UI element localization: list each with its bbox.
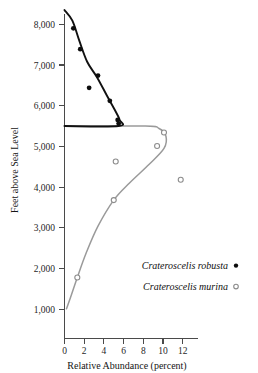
murina-point-2 bbox=[113, 159, 118, 164]
robusta-point-0 bbox=[71, 26, 76, 31]
y-tick-label-1000: 1,000 bbox=[34, 305, 56, 315]
murina-data-points bbox=[75, 130, 183, 280]
abundance-elevation-scatter-plot: 8,000 7,000 6,000 5,000 4,000 3,000 2,00… bbox=[0, 0, 258, 373]
robusta-point-6 bbox=[116, 121, 121, 126]
x-axis-title: Relative Abundance (percent) bbox=[67, 360, 186, 372]
robusta-point-2 bbox=[96, 73, 101, 78]
y-tick-label-7000: 7,000 bbox=[34, 61, 56, 71]
robusta-point-1 bbox=[78, 47, 83, 52]
murina-point-4 bbox=[111, 198, 116, 203]
x-tick-label-12: 12 bbox=[178, 346, 188, 356]
x-axis-ticks bbox=[65, 339, 183, 345]
legend-label-robusta: Crateroscelis robusta bbox=[142, 260, 228, 271]
murina-point-3 bbox=[178, 177, 183, 182]
y-tick-label-3000: 3,000 bbox=[34, 223, 56, 233]
murina-point-0 bbox=[161, 130, 166, 135]
chart-legend: Crateroscelis robusta Crateroscelis muri… bbox=[142, 260, 239, 292]
x-tick-label-6: 6 bbox=[121, 346, 126, 356]
chart-figure: 8,000 7,000 6,000 5,000 4,000 3,000 2,00… bbox=[0, 0, 258, 373]
legend-marker-robusta-filled-circle-icon bbox=[234, 263, 238, 267]
legend-label-murina: Crateroscelis murina bbox=[143, 281, 228, 292]
x-tick-label-4: 4 bbox=[102, 346, 107, 356]
y-tick-label-8000: 8,000 bbox=[34, 20, 56, 30]
y-tick-label-6000: 6,000 bbox=[34, 101, 56, 111]
x-tick-label-8: 8 bbox=[141, 346, 146, 356]
y-tick-label-2000: 2,000 bbox=[34, 264, 56, 274]
y-tick-label-4000: 4,000 bbox=[34, 183, 56, 193]
x-tick-label-0: 0 bbox=[62, 346, 67, 356]
murina-point-5 bbox=[75, 275, 80, 280]
x-tick-label-2: 2 bbox=[82, 346, 87, 356]
legend-marker-murina-open-circle-icon bbox=[234, 284, 239, 289]
y-axis-tick-labels: 8,000 7,000 6,000 5,000 4,000 3,000 2,00… bbox=[34, 20, 56, 315]
x-tick-label-10: 10 bbox=[158, 346, 168, 356]
robusta-point-3 bbox=[87, 85, 92, 90]
murina-point-1 bbox=[155, 143, 160, 148]
y-tick-label-5000: 5,000 bbox=[34, 142, 56, 152]
robusta-point-4 bbox=[107, 98, 112, 103]
y-axis-title: Feet above Sea Level bbox=[9, 127, 20, 213]
y-axis-ticks bbox=[59, 24, 65, 309]
x-axis-tick-labels: 0 2 4 6 8 10 12 bbox=[62, 346, 188, 356]
